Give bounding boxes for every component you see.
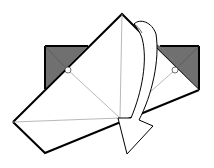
left-pivot-icon <box>65 67 71 73</box>
right-pivot-icon <box>172 67 178 73</box>
origami-diagram <box>0 0 214 168</box>
folded-white-flap <box>13 14 199 153</box>
